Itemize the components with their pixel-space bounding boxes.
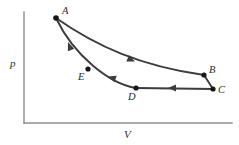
state-point-b — [201, 72, 206, 77]
process-path-d-to-e-to-a — [56, 18, 136, 88]
pv-diagram-figure: p V A B C D — [0, 0, 239, 145]
arrowhead-c-to-d — [168, 85, 176, 92]
state-point-d — [133, 85, 138, 90]
axes-group: p V — [9, 12, 232, 140]
state-label-a: A — [61, 5, 69, 16]
process-path-a-to-b — [56, 18, 204, 75]
state-label-b: B — [209, 64, 216, 75]
state-point-a — [53, 15, 59, 21]
pv-diagram-canvas: p V A B C D — [0, 0, 239, 145]
state-label-e: E — [77, 71, 85, 82]
y-axis-label: p — [9, 57, 16, 69]
state-point-e — [85, 66, 90, 71]
x-axis-label: V — [124, 128, 132, 140]
state-point-c — [210, 86, 215, 91]
state-label-d: D — [127, 91, 136, 102]
state-label-c: C — [218, 84, 226, 95]
